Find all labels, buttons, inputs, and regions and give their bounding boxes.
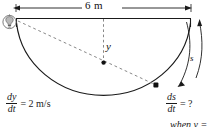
lamp-icon bbox=[3, 14, 16, 28]
fraction-ds-dt: ds dt bbox=[166, 92, 177, 114]
fraction-numerator: dy bbox=[6, 92, 17, 103]
label-s: s bbox=[190, 54, 194, 63]
related-rates-figure: 6 m y s dy dt = 2 m/s ds dt = ? when y = bbox=[0, 0, 215, 127]
center-point-dot bbox=[101, 60, 105, 64]
equation-dy-dt: dy dt = 2 m/s bbox=[6, 92, 51, 114]
fraction-numerator: ds bbox=[166, 92, 177, 103]
dimension-arrow-left bbox=[13, 5, 20, 10]
equation-right-condition: when y = bbox=[170, 119, 207, 127]
equation-left-relation: = 2 m/s bbox=[17, 98, 50, 109]
s-arrow-head-top bbox=[197, 19, 202, 26]
semicircle-arc bbox=[17, 23, 191, 95]
label-y: y bbox=[106, 41, 111, 52]
equation-right-relation: = ? bbox=[177, 98, 193, 109]
equation-ds-dt: ds dt = ? bbox=[166, 92, 192, 114]
dimension-label-6m: 6 m bbox=[85, 0, 103, 11]
s-arrow-outer-curve bbox=[196, 22, 202, 78]
fraction-dy-dt: dy dt bbox=[6, 92, 17, 114]
fraction-denominator: dt bbox=[6, 103, 17, 115]
fraction-denominator: dt bbox=[166, 103, 177, 115]
arc-point-dot bbox=[153, 83, 158, 88]
chord-line bbox=[18, 21, 156, 85]
s-arrow-head-bottom bbox=[178, 81, 186, 87]
s-arrow-inner-curve bbox=[180, 22, 190, 84]
